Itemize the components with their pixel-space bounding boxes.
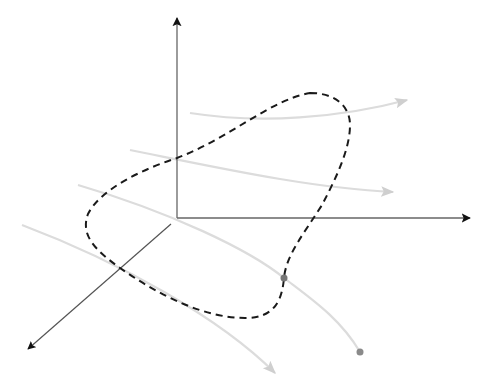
trajectory-endpoint-marker bbox=[357, 349, 364, 356]
intersection-point-marker bbox=[281, 275, 288, 282]
flow-line-1 bbox=[190, 100, 407, 119]
diagram-svg bbox=[0, 0, 499, 387]
y-axis bbox=[28, 224, 171, 349]
flow-line-2 bbox=[130, 150, 393, 192]
coordinate-axes bbox=[28, 18, 470, 349]
dashed-closed-curve bbox=[86, 93, 350, 318]
markers bbox=[281, 275, 364, 356]
diagram-canvas bbox=[0, 0, 499, 387]
